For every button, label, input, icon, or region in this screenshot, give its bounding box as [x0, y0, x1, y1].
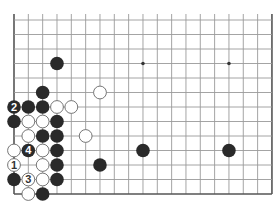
black-stone	[50, 115, 64, 129]
black-stone	[36, 86, 50, 100]
white-stone	[36, 115, 49, 128]
black-stone	[36, 100, 50, 114]
go-board: 2413	[0, 0, 276, 210]
black-stone	[7, 173, 21, 187]
white-stone	[8, 144, 21, 157]
black-stone	[36, 187, 50, 201]
white-stone	[79, 130, 92, 143]
star-point-icon	[141, 62, 145, 66]
white-stone	[65, 101, 78, 114]
move-number-label: 1	[11, 159, 17, 171]
white-stone	[36, 159, 49, 172]
black-stone	[222, 144, 236, 158]
black-stone	[50, 144, 64, 158]
black-stone	[7, 115, 21, 129]
white-stone	[36, 144, 49, 157]
black-stone	[50, 173, 64, 187]
black-stone: 2	[7, 100, 21, 114]
black-stone	[50, 57, 64, 71]
white-stone	[22, 115, 35, 128]
white-stone	[22, 130, 35, 143]
white-stone	[51, 101, 64, 114]
white-stone: 1	[8, 159, 21, 172]
black-stone	[136, 144, 150, 158]
black-stone	[50, 129, 64, 143]
move-number-label: 2	[11, 101, 17, 113]
black-stone: 4	[22, 144, 36, 158]
white-stone	[22, 188, 35, 201]
star-point-icon	[227, 62, 231, 66]
white-stone	[94, 86, 107, 99]
white-stone: 3	[22, 173, 35, 186]
move-number-label: 3	[25, 173, 31, 185]
black-stone	[36, 129, 50, 143]
black-stone	[22, 100, 36, 114]
white-stone	[36, 173, 49, 186]
black-stone	[50, 158, 64, 172]
black-stone	[93, 158, 107, 172]
move-number-label: 4	[25, 144, 32, 156]
